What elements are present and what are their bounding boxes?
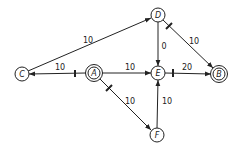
edge-weight-f-e: 10 xyxy=(162,97,172,106)
edge-e-b: 20 xyxy=(165,63,211,78)
graph-canvas: 10 10 10 20 0 10 10 10 D C xyxy=(0,0,244,152)
node-d: D xyxy=(151,8,165,22)
edge-d-e: 0 xyxy=(158,22,167,66)
edge-a-c: 10 xyxy=(29,63,86,78)
edge-weight-a-f: 10 xyxy=(125,97,135,106)
svg-text:A: A xyxy=(90,69,96,78)
edge-weight-c-d: 10 xyxy=(83,36,93,45)
node-f: F xyxy=(150,128,164,142)
node-e: E xyxy=(151,66,165,80)
edge-weight-d-b: 10 xyxy=(189,37,199,46)
edge-weight-a-c: 10 xyxy=(55,63,65,72)
svg-text:D: D xyxy=(155,11,161,20)
edge-a-e: 10 xyxy=(102,63,151,74)
node-b: B xyxy=(211,66,228,83)
edge-d-b: 10 xyxy=(163,20,213,68)
node-c: C xyxy=(15,67,29,81)
edge-weight-e-b: 20 xyxy=(182,63,192,72)
svg-text:C: C xyxy=(19,70,25,79)
edge-a-f: 10 xyxy=(100,79,151,130)
edge-f-e: 10 xyxy=(157,80,172,128)
edge-weight-d-e: 0 xyxy=(161,42,166,51)
svg-text:B: B xyxy=(216,70,222,79)
svg-text:F: F xyxy=(155,131,160,140)
edge-weight-a-e: 10 xyxy=(125,63,135,72)
node-a: A xyxy=(86,65,103,82)
